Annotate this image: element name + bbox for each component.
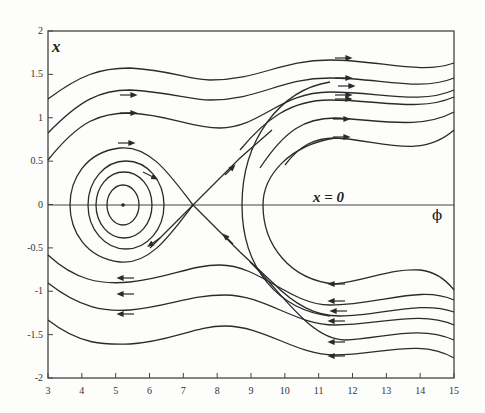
- phase-portrait-plot: 345678910111213141521.510.50-0.5-1-1.5-2: [0, 0, 485, 413]
- lower-curve: [48, 320, 454, 358]
- x-tick-label: 7: [181, 385, 186, 396]
- y-tick-label: -1: [35, 285, 43, 296]
- y-tick-label: 1: [38, 112, 43, 123]
- upper-curve: [48, 78, 454, 133]
- x-tick-label: 12: [348, 385, 358, 396]
- flow-arrows: [118, 58, 352, 356]
- y-tick-label: -2: [35, 372, 43, 383]
- axis-tick-labels: 345678910111213141521.510.50-0.5-1-1.5-2: [27, 25, 459, 396]
- y-tick-label: -0.5: [27, 242, 43, 253]
- upper-curve: [48, 60, 454, 99]
- x-tick-label: 4: [79, 385, 84, 396]
- x-tick-label: 5: [113, 385, 118, 396]
- y-tick-label: -1.5: [27, 329, 43, 340]
- x-tick-label: 3: [46, 385, 51, 396]
- x-tick-label: 10: [280, 385, 290, 396]
- upper-curve: [48, 90, 454, 160]
- x-tick-label: 14: [415, 385, 425, 396]
- y-tick-label: 0.5: [31, 155, 44, 166]
- y-tick-label: 2: [38, 25, 43, 36]
- y-axis-label: x: [51, 37, 61, 56]
- lower-curve: [250, 262, 454, 340]
- separatrix-unstable: [150, 130, 272, 248]
- zero-line-annotation: x = 0: [312, 189, 345, 205]
- y-tick-label: 0: [38, 199, 43, 210]
- center-fixed-point: [121, 203, 125, 207]
- lower-curve: [272, 282, 454, 316]
- x-tick-label: 9: [249, 385, 254, 396]
- upper-curve: [285, 130, 454, 165]
- trajectories: [48, 60, 454, 358]
- x-tick-label: 6: [147, 385, 152, 396]
- y-tick-label: 1.5: [31, 68, 44, 79]
- upper-curve: [240, 97, 454, 150]
- x-tick-label: 11: [314, 385, 324, 396]
- x-tick-label: 15: [449, 385, 459, 396]
- c-curve: [263, 138, 454, 290]
- x-axis-label: ϕ: [432, 206, 442, 224]
- x-tick-label: 13: [381, 385, 391, 396]
- x-tick-label: 8: [215, 385, 220, 396]
- lower-curve: [48, 283, 454, 325]
